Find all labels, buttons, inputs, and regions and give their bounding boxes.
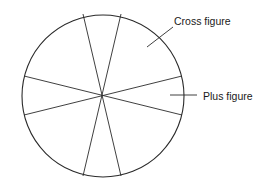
- cross-figure-leader-line: [147, 27, 173, 47]
- cross-figure-label: Cross figure: [174, 16, 231, 27]
- plus-figure-label: Plus figure: [203, 91, 253, 102]
- outer-circle: [22, 15, 184, 177]
